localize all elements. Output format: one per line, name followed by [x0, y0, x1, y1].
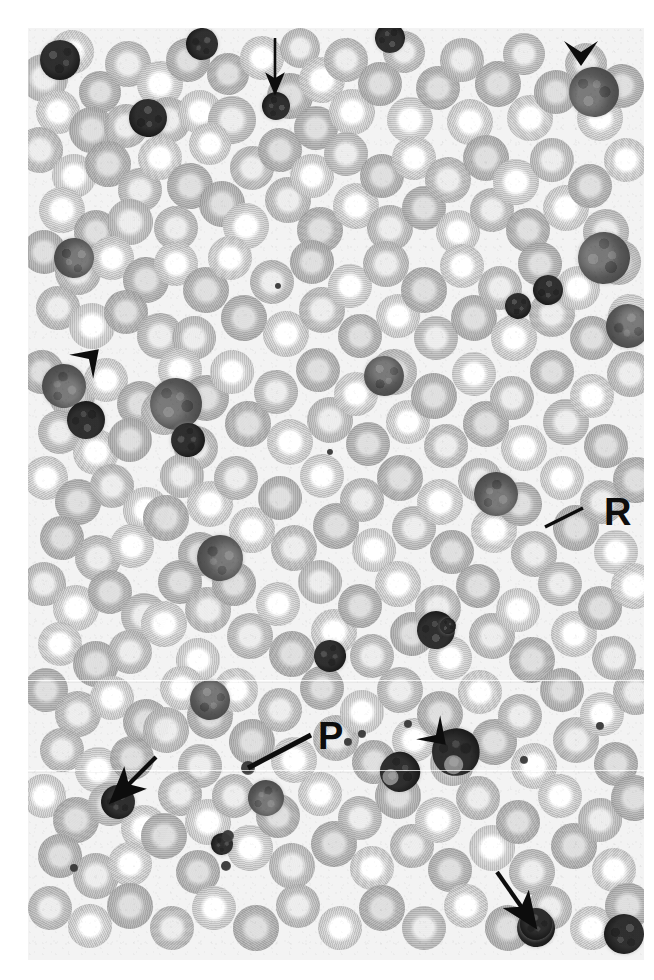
annotation-vectors: [0, 0, 654, 980]
label-P: P: [318, 717, 343, 755]
annotation-layer: R P: [0, 0, 654, 980]
arrow-bottom-left: [113, 757, 156, 800]
arrow-bottom-right: [497, 872, 534, 925]
arrowhead-top-right: [564, 41, 598, 66]
leader-line-R: [545, 508, 583, 527]
arrow-markers: [113, 38, 534, 925]
arrowhead-markers: [69, 41, 598, 757]
figure-root: R P: [0, 0, 654, 980]
leader-lines: [248, 508, 583, 768]
label-R: R: [604, 493, 631, 531]
arrowhead-left: [69, 337, 111, 379]
arrowhead-bottom-center: [416, 715, 458, 757]
leader-line-P: [248, 735, 311, 768]
